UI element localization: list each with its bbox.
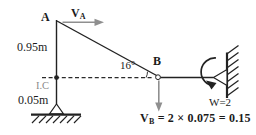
velocity-a-subscript: A [80,12,86,21]
velocity-b-equation-rest: = 2 × 0.075 = 0.15 [158,111,251,125]
angle-arc [146,72,148,78]
joint-b-pin [156,75,161,80]
angle-label: 16° [120,60,135,71]
pin-support-triangle [50,104,64,114]
velocity-a-symbol: V [71,6,80,20]
velocity-a-arrowhead-icon [95,19,105,26]
velocity-a-label: VA [71,7,85,19]
ground-hatching [32,116,81,123]
velocity-b-symbol: V [140,111,149,125]
length-upper-label: 0.95m [17,41,47,53]
kinematics-diagram: A VA 0.95m I.C 0.05m 16° B W=2 VB = 2 × … [0,0,256,135]
omega-label: W=2 [209,97,231,108]
point-b-label: B [153,55,161,67]
rod-ab [57,21,158,76]
wall-hatching [228,46,239,96]
instant-center-label: I.C [36,81,49,92]
instant-center-dot [54,75,59,80]
length-lower-label: 0.05m [18,94,48,106]
velocity-b-subscript: B [149,117,155,126]
point-a-label: A [41,11,50,23]
rotation-arrowhead-icon [206,81,217,90]
velocity-b-equation: VB = 2 × 0.075 = 0.15 [140,112,251,124]
